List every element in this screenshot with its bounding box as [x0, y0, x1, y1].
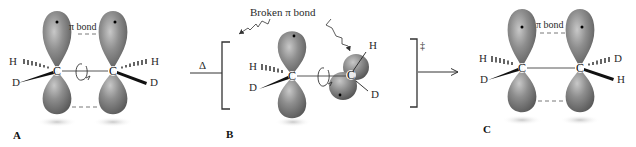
substituent-h: H: [369, 39, 377, 51]
substituent-d: D: [614, 52, 622, 64]
broken-pi-bond-label: Broken π bond: [250, 6, 316, 18]
solid-wedge: [488, 68, 519, 80]
carbon-atom: C: [518, 61, 526, 75]
electron-dot: [56, 21, 59, 24]
substituent-d: D: [371, 88, 379, 100]
carbon-atom: C: [109, 64, 117, 78]
rotation-arrow-icon: [318, 68, 329, 86]
electron-dot: [581, 26, 584, 29]
pi-bond-label: π bond: [536, 19, 564, 30]
panel-label: B: [226, 128, 234, 140]
carbon-atom: C: [53, 64, 61, 78]
panel-b: ‡ C C H D: [222, 6, 425, 140]
p-orbital-right: [99, 11, 128, 114]
rotation-arrow-icon: [76, 64, 87, 80]
bond-to-d: [356, 81, 368, 91]
solid-wedge: [584, 68, 614, 81]
substituent-d: D: [249, 81, 257, 93]
panel-label: A: [13, 129, 21, 141]
heat-symbol: Δ: [199, 59, 206, 71]
electron-dot: [114, 21, 117, 24]
isomerization-diagram: π bond C C H D: [0, 0, 636, 147]
substituent-h: H: [617, 73, 625, 85]
squiggle-arrow-left-icon: [239, 19, 270, 34]
substituent-h: H: [479, 52, 487, 64]
carbon-atom: C: [288, 69, 296, 83]
electron-dot: [293, 35, 296, 38]
panel-label: C: [483, 123, 491, 135]
substituent-h: H: [151, 55, 159, 67]
hashed-wedge: [492, 56, 512, 65]
substituent-h: H: [249, 60, 257, 72]
hashed-wedge: [122, 59, 146, 69]
transition-state-symbol: ‡: [420, 40, 425, 51]
shadow: [37, 117, 77, 127]
hashed-wedge: [262, 64, 282, 73]
heat-step: Δ: [190, 59, 222, 73]
panel-c: π bond C C H D D H C: [479, 9, 625, 135]
substituent-d: D: [12, 76, 20, 88]
panel-a: π bond C C H D: [9, 11, 159, 141]
electron-dot: [521, 26, 524, 29]
solid-wedge: [18, 71, 54, 83]
hashed-wedge: [24, 59, 48, 69]
p-orbital-left: [43, 11, 72, 114]
electron-dot: [339, 94, 342, 97]
pi-bond-label: π bond: [69, 21, 97, 32]
carbon-atom: C: [576, 61, 584, 75]
shadow: [93, 117, 133, 127]
right-bracket: [410, 39, 417, 107]
left-bracket: [222, 42, 230, 109]
substituent-d: D: [480, 73, 488, 85]
squiggle-arrow-right-icon: [326, 19, 350, 51]
substituent-d: D: [150, 76, 158, 88]
hashed-wedge: [589, 57, 609, 66]
substituent-h: H: [9, 55, 17, 67]
